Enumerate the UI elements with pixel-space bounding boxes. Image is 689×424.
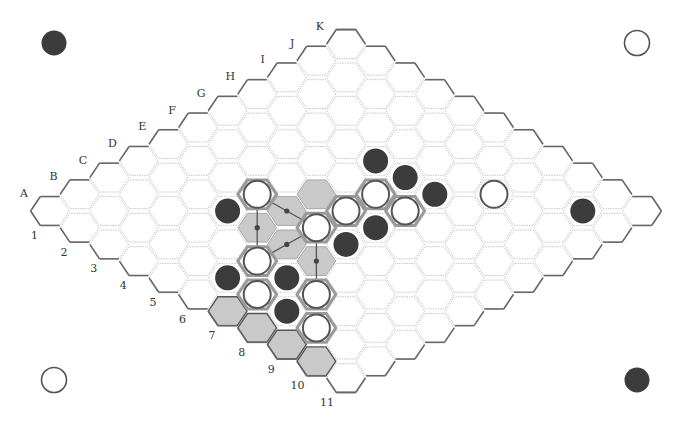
black-stone-E7 xyxy=(333,231,360,258)
hex-cell-F2[interactable] xyxy=(208,130,247,159)
hex-cell-J2[interactable] xyxy=(327,63,366,92)
hex-cell-H2[interactable] xyxy=(267,96,306,125)
hex-cell-I7[interactable] xyxy=(445,163,484,192)
hex-cell-D2[interactable] xyxy=(149,163,188,192)
column-label: F xyxy=(168,104,176,117)
hex-cell-F9[interactable] xyxy=(415,247,454,276)
hex-cell-F8[interactable] xyxy=(386,230,425,259)
black-stone-C7 xyxy=(273,264,300,291)
column-label: J xyxy=(289,37,294,50)
hex-cell-B4[interactable] xyxy=(149,230,188,259)
hex-cell-D10[interactable] xyxy=(386,297,425,326)
column-label: B xyxy=(50,170,58,183)
hex-cell-F3[interactable] xyxy=(238,147,277,176)
hex-cell-B2[interactable] xyxy=(90,197,129,226)
hex-cell-I2[interactable] xyxy=(297,80,336,109)
column-label: H xyxy=(226,70,236,83)
row-label: 9 xyxy=(268,363,275,376)
hex-cell-J6[interactable] xyxy=(445,130,484,159)
hex-cell-J9[interactable] xyxy=(534,180,573,209)
white-stone-C6 xyxy=(244,248,271,275)
column-label: G xyxy=(197,87,206,100)
hex-cell-J8[interactable] xyxy=(504,163,543,192)
black-stone-B8 xyxy=(273,298,300,325)
row-label: 6 xyxy=(179,313,186,326)
black-stone-F7 xyxy=(362,214,389,241)
hex-board-figure: ABCDEFGHIJK1234567891011 xyxy=(0,0,689,424)
column-label: I xyxy=(260,53,264,66)
hex-cell-J5[interactable] xyxy=(415,113,454,142)
black-stone-J10 xyxy=(569,198,596,225)
hex-cell-G4[interactable] xyxy=(297,147,336,176)
white-stone-C8 xyxy=(303,281,330,308)
column-label: A xyxy=(19,187,29,200)
hex-cell-G2[interactable] xyxy=(238,113,277,142)
black-stone-H7 xyxy=(421,181,448,208)
link-midpoint-dot xyxy=(284,242,289,247)
row-label: 11 xyxy=(320,396,334,409)
hex-cell-I5[interactable] xyxy=(386,130,425,159)
row-label: 5 xyxy=(149,296,156,309)
black-stone-D4 xyxy=(214,198,241,225)
hex-cell-H4[interactable] xyxy=(327,130,366,159)
hex-cell-J3[interactable] xyxy=(356,80,395,109)
white-stone-F6 xyxy=(333,198,360,225)
hex-cell-I6[interactable] xyxy=(415,147,454,176)
white-stone-G7 xyxy=(392,198,419,225)
hex-cell-E9[interactable] xyxy=(386,263,425,292)
column-label: K xyxy=(316,20,325,33)
hex-cell-C10[interactable] xyxy=(356,314,395,343)
hex-board: ABCDEFGHIJK1234567891011 xyxy=(0,0,689,424)
white-stone-I8 xyxy=(481,181,508,208)
hex-cell-I3[interactable] xyxy=(327,96,366,125)
hex-cell-D9[interactable] xyxy=(356,280,395,309)
hex-cell-C3[interactable] xyxy=(149,197,188,226)
hex-cell-I10[interactable] xyxy=(534,213,573,242)
corner-marker-bottom-right xyxy=(625,368,650,393)
hex-cell-H3[interactable] xyxy=(297,113,336,142)
corner-marker-top-left xyxy=(42,31,67,56)
hex-cell-G10[interactable] xyxy=(475,247,514,276)
hex-cell-E10[interactable] xyxy=(415,280,454,309)
link-midpoint-dot xyxy=(284,208,289,213)
column-label: C xyxy=(79,154,87,167)
hex-cell-H10[interactable] xyxy=(504,230,543,259)
link-midpoint-dot xyxy=(255,225,260,230)
black-stone-H6 xyxy=(392,164,419,191)
corner-marker-top-right xyxy=(625,31,650,56)
link-midpoint-dot xyxy=(314,259,319,264)
hex-cell-J7[interactable] xyxy=(475,147,514,176)
row-label: 8 xyxy=(238,346,245,359)
hex-cell-D3[interactable] xyxy=(179,180,218,209)
hex-cell-C4[interactable] xyxy=(179,213,218,242)
column-label: D xyxy=(108,137,117,150)
row-label: 2 xyxy=(61,246,68,259)
row-label: 10 xyxy=(290,379,304,392)
hex-cell-B3[interactable] xyxy=(119,213,158,242)
hex-cell-C2[interactable] xyxy=(119,180,158,209)
black-stone-H5 xyxy=(362,147,389,174)
hex-cell-G3[interactable] xyxy=(267,130,306,159)
hex-cell-G9[interactable] xyxy=(445,230,484,259)
hex-cell-J4[interactable] xyxy=(386,96,425,125)
hex-cell-E2[interactable] xyxy=(179,147,218,176)
hex-cell-I4[interactable] xyxy=(356,113,395,142)
white-stone-E4 xyxy=(244,181,271,208)
column-label: E xyxy=(138,120,146,133)
hex-cell-B5[interactable] xyxy=(179,247,218,276)
row-label: 3 xyxy=(90,262,97,275)
row-label: 1 xyxy=(31,229,38,242)
white-stone-E6 xyxy=(303,214,330,241)
hex-cell-F10[interactable] xyxy=(445,263,484,292)
hex-cell-E8[interactable] xyxy=(356,247,395,276)
white-stone-B9 xyxy=(303,314,330,341)
black-stone-B6 xyxy=(214,264,241,291)
hex-cell-H8[interactable] xyxy=(445,197,484,226)
white-stone-B7 xyxy=(244,281,271,308)
hex-cell-H9[interactable] xyxy=(475,213,514,242)
row-label: 4 xyxy=(120,279,127,292)
row-label: 7 xyxy=(209,329,216,342)
corner-marker-bottom-left xyxy=(42,368,67,393)
hex-cell-I9[interactable] xyxy=(504,197,543,226)
white-stone-G6 xyxy=(362,181,389,208)
